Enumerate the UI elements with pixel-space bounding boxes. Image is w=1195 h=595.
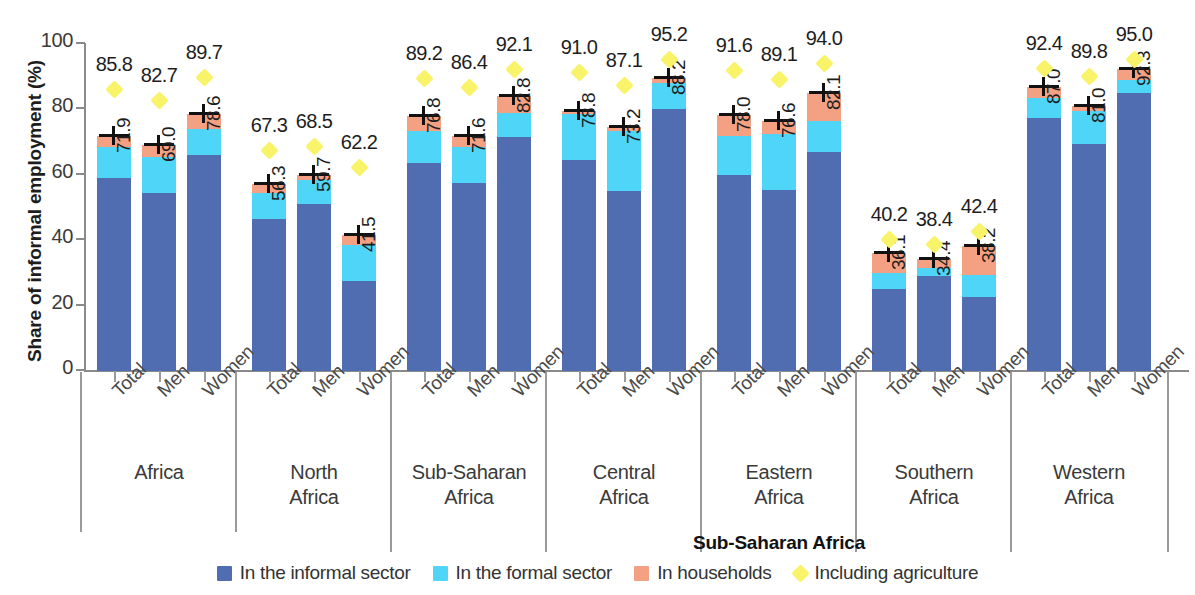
- excluding-agriculture-value: 82.8: [513, 78, 535, 113]
- excluding-agriculture-value: 56.3: [268, 166, 290, 201]
- bar-segment-informal-sector: [1072, 144, 1106, 371]
- including-agriculture-value: 95.2: [637, 23, 701, 46]
- bar-segment-formal-sector: [497, 113, 531, 138]
- bar-segment-informal-sector: [717, 175, 751, 371]
- legend-label: In the informal sector: [240, 562, 411, 584]
- group-label-eastern-africa: EasternAfrica: [695, 460, 863, 510]
- bar-southern-africa-women[interactable]: [962, 246, 996, 371]
- bar-segment-informal-sector: [407, 163, 441, 371]
- bar-segment-informal-sector: [497, 137, 531, 371]
- bar-sub-saharan-africa-men[interactable]: [452, 136, 486, 371]
- excluding-agriculture-value: 59.7: [313, 157, 335, 192]
- plot-area: [84, 43, 1189, 371]
- legend-swatch-icon: [634, 566, 649, 581]
- bar-segment-informal-sector: [652, 109, 686, 371]
- bar-segment-formal-sector: [187, 129, 221, 155]
- including-agriculture-value: 68.5: [282, 110, 346, 133]
- legend-label: In the formal sector: [456, 562, 613, 584]
- bar-africa-women[interactable]: [187, 114, 221, 371]
- excluding-agriculture-value: 82.1: [823, 75, 845, 110]
- legend-item[interactable]: In households: [634, 562, 771, 584]
- bar-segment-informal-sector: [142, 193, 176, 371]
- bar-africa-men[interactable]: [142, 145, 176, 371]
- y-axis-tick-label: 0: [21, 356, 73, 379]
- bar-segment-informal-sector: [187, 155, 221, 371]
- bar-segment-formal-sector: [142, 157, 176, 193]
- bar-segment-informal-sector: [762, 190, 796, 371]
- informal-employment-chart: Share of informal employment (%) 0204060…: [0, 0, 1195, 595]
- excluding-agriculture-value: 76.8: [423, 98, 445, 133]
- bar-central-africa-men[interactable]: [607, 127, 641, 371]
- bar-eastern-africa-total[interactable]: [717, 115, 751, 371]
- including-agriculture-value: 92.1: [482, 33, 546, 56]
- bar-central-africa-total[interactable]: [562, 111, 596, 371]
- group-label-africa: Africa: [75, 460, 243, 485]
- including-agriculture-value: 62.2: [327, 131, 391, 154]
- bar-segment-formal-sector: [807, 121, 841, 152]
- bar-north-africa-men[interactable]: [297, 175, 331, 371]
- legend-item[interactable]: In the formal sector: [433, 562, 613, 584]
- bar-segment-formal-sector: [872, 273, 906, 289]
- group-separator: [1167, 372, 1169, 552]
- group-label-western-africa: WesternAfrica: [1005, 460, 1173, 510]
- legend-item[interactable]: In the informal sector: [217, 562, 411, 584]
- y-axis-tick-label: 80: [21, 94, 73, 117]
- bar-western-africa-total[interactable]: [1027, 87, 1061, 371]
- excluding-agriculture-value: 41.5: [358, 217, 380, 252]
- group-label-sub-saharan-africa: Sub-SaharanAfrica: [385, 460, 553, 510]
- legend-diamond-icon: [791, 564, 809, 582]
- legend-swatch-icon: [433, 566, 448, 581]
- bar-segment-formal-sector: [407, 131, 441, 164]
- bar-segment-informal-sector: [452, 183, 486, 371]
- y-axis-tick-label: 100: [21, 29, 73, 52]
- bar-segment-informal-sector: [297, 204, 331, 371]
- legend-swatch-icon: [217, 566, 232, 581]
- bar-segment-informal-sector: [252, 219, 286, 371]
- bar-southern-africa-total[interactable]: [872, 253, 906, 371]
- excluding-agriculture-value: 71.9: [113, 118, 135, 153]
- bar-segment-formal-sector: [762, 134, 796, 190]
- group-label-north-africa: NorthAfrica: [230, 460, 398, 510]
- bar-north-africa-women[interactable]: [342, 235, 376, 371]
- group-label-southern-africa: SouthernAfrica: [850, 460, 1018, 510]
- excluding-agriculture-value: 78.0: [733, 97, 755, 132]
- legend-label: In households: [657, 562, 771, 584]
- y-axis-tick-label: 20: [21, 291, 73, 314]
- excluding-agriculture-value: 81.0: [1088, 88, 1110, 123]
- bar-segment-informal-sector: [807, 152, 841, 371]
- bar-segment-informal-sector: [97, 178, 131, 371]
- bar-north-africa-total[interactable]: [252, 184, 286, 371]
- excluding-agriculture-value: 78.6: [203, 96, 225, 131]
- bar-segment-formal-sector: [717, 136, 751, 175]
- bar-sub-saharan-africa-women[interactable]: [497, 96, 531, 371]
- bar-eastern-africa-men[interactable]: [762, 121, 796, 371]
- super-group-label: Sub-Saharan Africa: [407, 532, 1151, 554]
- bar-segment-informal-sector: [962, 297, 996, 371]
- bar-segment-informal-sector: [342, 281, 376, 371]
- excluding-agriculture-value: 69.0: [158, 127, 180, 162]
- bar-central-africa-women[interactable]: [652, 78, 686, 371]
- excluding-agriculture-value: 78.8: [578, 93, 600, 128]
- legend-item[interactable]: Including agriculture: [794, 562, 979, 584]
- bar-western-africa-men[interactable]: [1072, 106, 1106, 371]
- bar-segment-informal-sector: [607, 191, 641, 371]
- excluding-agriculture-value: 76.6: [778, 103, 800, 138]
- group-label-central-africa: CentralAfrica: [540, 460, 708, 510]
- bar-eastern-africa-women[interactable]: [807, 93, 841, 371]
- bar-segment-informal-sector: [917, 276, 951, 371]
- including-agriculture-value: 89.7: [172, 41, 236, 64]
- bar-segment-informal-sector: [1027, 118, 1061, 371]
- including-agriculture-value: 82.7: [127, 64, 191, 87]
- bar-western-africa-women[interactable]: [1117, 69, 1151, 371]
- bar-segment-informal-sector: [562, 160, 596, 371]
- including-agriculture-value: 94.0: [792, 27, 856, 50]
- y-axis-title: Share of informal employment (%): [24, 26, 46, 396]
- bar-sub-saharan-africa-total[interactable]: [407, 116, 441, 371]
- including-agriculture-value: 95.0: [1102, 23, 1166, 46]
- excluding-agriculture-value: 73.2: [623, 109, 645, 144]
- including-agriculture-value: 87.1: [592, 49, 656, 72]
- bar-africa-total[interactable]: [97, 136, 131, 371]
- bar-segment-informal-sector: [872, 289, 906, 371]
- group-separator: [80, 372, 82, 532]
- chart-legend: In the informal sectorIn the formal sect…: [0, 562, 1195, 584]
